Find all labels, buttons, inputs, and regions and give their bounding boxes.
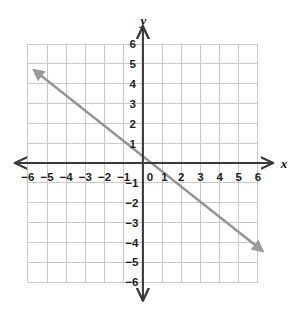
- y-tick-label: 1: [130, 138, 137, 150]
- x-tick-label: −5: [41, 171, 55, 183]
- x-tick-label: 4: [216, 171, 223, 183]
- y-tick-label: 6: [130, 38, 136, 50]
- y-tick-label: −4: [125, 237, 139, 249]
- y-tick-label: 3: [130, 98, 136, 110]
- x-tick-label: −6: [21, 171, 34, 183]
- graph-canvas: Which graph represents the equation: [0, 0, 300, 310]
- x-tick-label: 6: [255, 171, 261, 183]
- y-tick-label: −2: [125, 197, 138, 209]
- x-tick-label: 1: [161, 171, 168, 183]
- coordinate-plane-plot: −6 −5 −4 −3 −2 −1 0 1 2 3 4 5 6 6 5 4 3 …: [0, 0, 300, 310]
- y-tick-label: 4: [130, 78, 137, 90]
- x-tick-label: −2: [98, 171, 111, 183]
- x-tick-label: 2: [178, 171, 184, 183]
- y-tick-label: −3: [125, 217, 138, 229]
- plot-background: [0, 0, 300, 310]
- x-tick-label: 5: [235, 171, 242, 183]
- y-tick-label: 2: [130, 118, 136, 130]
- x-tick-label: −4: [60, 171, 74, 183]
- y-tick-label: −1: [125, 177, 139, 189]
- x-tick-label: 3: [197, 171, 203, 183]
- origin-label: 0: [147, 171, 153, 183]
- y-axis-label: y: [139, 13, 147, 28]
- x-tick-label: −3: [79, 171, 92, 183]
- y-tick-label: −5: [125, 256, 139, 268]
- y-tick-label: 5: [130, 58, 137, 70]
- x-axis-label: x: [280, 156, 288, 171]
- y-tick-label: −6: [125, 276, 138, 288]
